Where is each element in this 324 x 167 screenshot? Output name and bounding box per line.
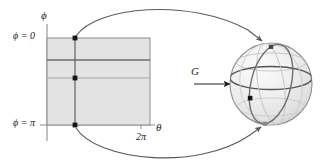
- domain-rect: [47, 38, 150, 125]
- sphere-point-north: [269, 45, 273, 49]
- arrow-top-collapse: [76, 9, 262, 41]
- sphere-point-south: [263, 122, 267, 126]
- theta-max-label: 2π: [136, 132, 146, 142]
- sphere-body: [230, 43, 312, 125]
- parameter-domain: [47, 36, 150, 128]
- point-middle: [73, 76, 78, 81]
- phi-axis-label: ϕ: [41, 10, 47, 21]
- phi-pi-label: ϕ = π: [13, 118, 35, 128]
- theta-axis-label: θ: [156, 122, 161, 133]
- spherical-map-figure: ϕ ϕ = 0 ϕ = π 2π θ G: [0, 0, 324, 167]
- point-bottom: [73, 123, 78, 128]
- phi-zero-label: ϕ = 0: [13, 31, 35, 41]
- target-sphere: [230, 39, 312, 130]
- map-name-label: G: [191, 66, 199, 77]
- arrow-bottom-collapse: [76, 127, 261, 158]
- figure-canvas: [0, 0, 324, 167]
- sphere-point-interior: [248, 96, 253, 101]
- point-top: [73, 36, 78, 41]
